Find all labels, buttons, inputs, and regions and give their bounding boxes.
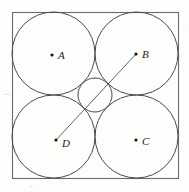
circle-a <box>12 12 95 95</box>
point-dot-c <box>134 138 137 141</box>
point-dot-a <box>50 53 53 56</box>
point-label-c: C <box>142 135 150 147</box>
point-dot-b <box>134 52 137 55</box>
circle-d <box>12 95 95 178</box>
point-label-b: B <box>142 48 149 60</box>
bounding-square <box>13 13 179 179</box>
center-circle <box>78 78 112 112</box>
figure-canvas: A B C D <box>0 0 189 192</box>
point-label-d: D <box>61 137 70 149</box>
geometry-figure: A B C D <box>0 0 189 192</box>
point-dot-d <box>54 138 57 141</box>
circle-c <box>95 95 178 178</box>
point-label-a: A <box>57 49 65 61</box>
